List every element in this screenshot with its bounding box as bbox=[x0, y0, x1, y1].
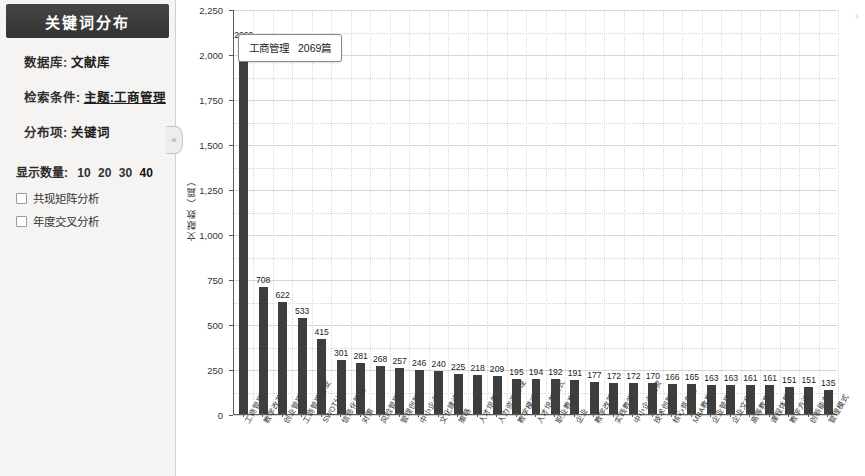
tooltip-category: 工商管理 bbox=[249, 42, 289, 54]
tooltip-value: 2069篇 bbox=[298, 42, 331, 54]
bar-value-label: 415 bbox=[315, 327, 329, 337]
bar[interactable] bbox=[551, 10, 560, 414]
bar[interactable] bbox=[746, 10, 755, 414]
bar[interactable] bbox=[512, 10, 521, 414]
bar-value-label: 622 bbox=[276, 290, 290, 300]
bar-value-label: 225 bbox=[451, 362, 465, 372]
bar[interactable] bbox=[473, 10, 482, 414]
bar-value-label: 172 bbox=[626, 371, 640, 381]
bar-value-label: 533 bbox=[295, 306, 309, 316]
bar[interactable] bbox=[317, 10, 326, 414]
bar[interactable] bbox=[298, 10, 307, 414]
checkbox-annual-cross-label: 年度交叉分析 bbox=[33, 213, 99, 229]
display-count-option-40[interactable]: 40 bbox=[139, 166, 152, 180]
bar[interactable] bbox=[765, 10, 774, 414]
bar[interactable] bbox=[726, 10, 735, 414]
bar[interactable] bbox=[824, 10, 833, 414]
panel-body: 数据库: 文献库 检索条件: 主题:工商管理 分布项: 关键词 显示数量: 10… bbox=[0, 38, 175, 229]
info-database: 数据库: 文献库 bbox=[10, 52, 165, 71]
y-axis-tick-label: 1,750 bbox=[199, 95, 223, 106]
bar[interactable] bbox=[668, 10, 677, 414]
y-axis-tick-mark bbox=[229, 145, 233, 146]
bar[interactable] bbox=[629, 10, 638, 414]
sidebar-panel: 关键词分布 数据库: 文献库 检索条件: 主题:工商管理 分布项: 关键词 显示… bbox=[0, 0, 176, 476]
bar[interactable] bbox=[395, 10, 404, 414]
y-axis-tick-mark bbox=[229, 280, 233, 281]
bar-value-label: 163 bbox=[704, 373, 718, 383]
bar-value-label: 151 bbox=[782, 375, 796, 385]
bars-layer: 2069708622533415301281268257246240225218… bbox=[234, 10, 837, 414]
bar-value-label: 166 bbox=[665, 372, 679, 382]
checkbox-cooccurrence-matrix[interactable]: 共现矩阵分析 bbox=[10, 190, 165, 206]
y-axis-tick-label: 0 bbox=[218, 410, 223, 421]
app-root: 关键词分布 数据库: 文献库 检索条件: 主题:工商管理 分布项: 关键词 显示… bbox=[0, 0, 865, 476]
y-axis-tick-mark bbox=[229, 325, 233, 326]
bar-value-label: 218 bbox=[470, 363, 484, 373]
y-axis-tick-label: 1,500 bbox=[199, 140, 223, 151]
bar-value-label: 194 bbox=[529, 367, 543, 377]
bar-value-label: 165 bbox=[685, 372, 699, 382]
y-axis-tick-mark bbox=[229, 100, 233, 101]
y-axis-tick-label: 2,250 bbox=[199, 5, 223, 16]
bar[interactable] bbox=[415, 10, 424, 414]
bar[interactable] bbox=[434, 10, 443, 414]
bar-value-label: 708 bbox=[256, 275, 270, 285]
bar-value-label: 209 bbox=[490, 364, 504, 374]
bar-rect[interactable] bbox=[239, 42, 248, 414]
bar[interactable] bbox=[590, 10, 599, 414]
x-axis-tick-labels: 工商管理教学改革创业管理工商管理专业SWOT分析信息化管理对策风险管理管理创新中… bbox=[233, 417, 837, 476]
bar[interactable] bbox=[570, 10, 579, 414]
bar-value-label: 281 bbox=[353, 351, 367, 361]
bar[interactable] bbox=[239, 10, 248, 414]
bar[interactable] bbox=[707, 10, 716, 414]
bar-value-label: 161 bbox=[743, 373, 757, 383]
bar[interactable] bbox=[687, 10, 696, 414]
bar[interactable] bbox=[648, 10, 657, 414]
bar[interactable] bbox=[259, 10, 268, 414]
bar-value-label: 135 bbox=[821, 378, 835, 388]
bar[interactable] bbox=[804, 10, 813, 414]
sidebar-collapse-icon[interactable]: « bbox=[166, 126, 183, 154]
y-axis-tick-mark bbox=[229, 190, 233, 191]
y-axis-tick-mark bbox=[229, 415, 233, 416]
plot-wrapper: 文献数（篇） 02505007501,0001,2501,5001,7502,0… bbox=[185, 10, 841, 465]
checkbox-annual-cross[interactable]: 年度交叉分析 bbox=[10, 213, 165, 229]
display-count-option-20[interactable]: 20 bbox=[98, 166, 111, 180]
info-distribution-value: 关键词 bbox=[71, 126, 110, 140]
y-axis-tick-mark bbox=[229, 370, 233, 371]
chart-panel: › 文献数（篇） 02505007501,0001,2501,5001,7502… bbox=[176, 0, 865, 476]
checkbox-icon[interactable] bbox=[16, 216, 27, 227]
bar-tooltip: 工商管理2069篇 bbox=[238, 34, 342, 62]
y-axis-tick-label: 1,000 bbox=[199, 230, 223, 241]
bar[interactable] bbox=[609, 10, 618, 414]
bar-value-label: 192 bbox=[548, 367, 562, 377]
info-distribution-label: 分布项: bbox=[24, 126, 67, 140]
bar[interactable] bbox=[454, 10, 463, 414]
y-axis-tick-mark bbox=[229, 55, 233, 56]
bar-value-label: 161 bbox=[763, 373, 777, 383]
bar[interactable] bbox=[278, 10, 287, 414]
info-condition-label: 检索条件: bbox=[24, 91, 80, 105]
y-axis-tick-label: 750 bbox=[207, 275, 223, 286]
bar-value-label: 195 bbox=[509, 367, 523, 377]
y-axis-tick-labels: 02505007501,0001,2501,5001,7502,0002,250 bbox=[193, 10, 229, 415]
grid-line-vertical bbox=[838, 10, 839, 414]
bar-value-label: 257 bbox=[392, 356, 406, 366]
bar-value-label: 246 bbox=[412, 358, 426, 368]
y-axis-tick-label: 2,000 bbox=[199, 50, 223, 61]
panel-expand-icon[interactable]: › bbox=[855, 8, 859, 23]
bar[interactable] bbox=[532, 10, 541, 414]
checkbox-cooccurrence-matrix-label: 共现矩阵分析 bbox=[33, 190, 99, 206]
bar-value-label: 301 bbox=[334, 348, 348, 358]
checkbox-icon[interactable] bbox=[16, 193, 27, 204]
bar-value-label: 163 bbox=[724, 373, 738, 383]
display-count-option-10[interactable]: 10 bbox=[77, 166, 90, 180]
info-condition-value: 主题:工商管理 bbox=[84, 91, 166, 105]
plot-area: 2069708622533415301281268257246240225218… bbox=[233, 10, 837, 415]
display-count-row: 显示数量: 10 20 30 40 bbox=[10, 163, 165, 180]
bar[interactable] bbox=[493, 10, 502, 414]
bar-value-label: 268 bbox=[373, 354, 387, 364]
y-axis-tick-mark bbox=[229, 235, 233, 236]
bar[interactable] bbox=[785, 10, 794, 414]
display-count-option-30[interactable]: 30 bbox=[119, 166, 132, 180]
